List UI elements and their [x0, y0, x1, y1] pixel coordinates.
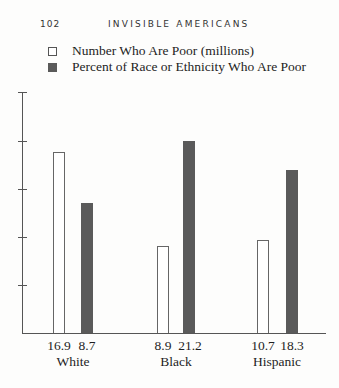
y-tick [18, 141, 27, 142]
bar-white-percent [81, 203, 93, 333]
legend-swatch-outline [48, 47, 57, 56]
category-label-hispanic: Hispanic [237, 354, 317, 370]
y-tick [18, 285, 27, 286]
value-label-white-percent: 8.7 [67, 338, 107, 354]
legend-label-percent: Percent of Race or Ethnicity Who Are Poo… [72, 59, 306, 75]
bar-hispanic-number [257, 240, 269, 333]
category-label-black: Black [136, 354, 216, 370]
legend-label-number: Number Who Are Poor (millions) [72, 43, 254, 59]
category-label-white: White [33, 354, 113, 370]
y-tick [18, 92, 27, 93]
value-label-hispanic-percent: 18.3 [272, 338, 312, 354]
x-axis [22, 333, 326, 334]
bar-black-number [157, 246, 169, 333]
y-tick [18, 237, 27, 238]
bar-hispanic-percent [286, 170, 298, 333]
cutoff-text-line [40, 383, 330, 388]
bar-white-number [53, 152, 65, 333]
value-label-black-percent: 21.2 [170, 338, 210, 354]
y-axis [22, 92, 23, 334]
page-number: 102 [40, 19, 60, 29]
bar-black-percent [183, 141, 195, 333]
legend-swatch-filled [48, 63, 57, 72]
y-tick [18, 189, 27, 190]
running-head: INVISIBLE AMERICANS [108, 19, 250, 29]
